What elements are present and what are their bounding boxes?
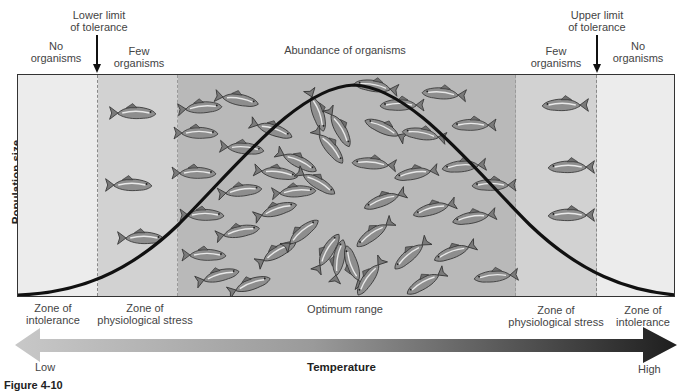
lower-limit-line1: Lower limit [62,9,136,21]
abundance-label: Abundance of organisms [270,44,420,56]
left-no-organisms-label: No organisms [25,40,87,64]
upper-limit-label: Upper limit of tolerance [560,9,634,33]
temperature-arrow-icon [0,326,679,366]
left-intolerance-line1: Zone of [22,302,84,314]
fish-group [106,75,595,297]
left-intolerance-line2: intolerance [22,314,84,326]
lower-limit-line2: of tolerance [62,21,136,33]
lower-limit-arrowhead-icon [93,64,101,73]
fish-and-curve-illustration [18,75,675,297]
lower-limit-label: Lower limit of tolerance [62,9,136,33]
right-intolerance-line1: Zone of [612,304,674,316]
right-no-line2: organisms [607,52,669,64]
right-few-line2: organisms [525,57,587,69]
left-few-line1: Few [108,45,170,57]
upper-limit-arrowhead-icon [593,64,601,73]
upper-limit-arrow-icon [596,35,598,65]
axis-high-label: High [638,363,661,375]
right-intolerance-label: Zone of intolerance [612,304,674,328]
right-stress-label: Zone of physiological stress [506,304,606,328]
left-stress-label: Zone of physiological stress [95,302,195,326]
axis-low-label: Low [35,361,55,373]
right-stress-line1: Zone of [506,304,606,316]
lower-limit-arrow-icon [96,35,98,65]
figure-caption: Figure 4-10 [4,379,63,391]
optimum-range-label: Optimum range [290,303,400,315]
tolerance-chart-panel [17,74,675,297]
left-no-line2: organisms [25,52,87,64]
left-few-organisms-label: Few organisms [108,45,170,69]
left-no-line1: No [25,40,87,52]
right-no-line1: No [607,40,669,52]
right-no-organisms-label: No organisms [607,40,669,64]
upper-limit-line2: of tolerance [560,21,634,33]
left-stress-line1: Zone of [95,302,195,314]
upper-limit-line1: Upper limit [560,9,634,21]
left-intolerance-label: Zone of intolerance [22,302,84,326]
axis-title-temperature: Temperature [307,361,376,373]
left-few-line2: organisms [108,57,170,69]
right-few-line1: Few [525,45,587,57]
left-stress-line2: physiological stress [95,314,195,326]
right-few-organisms-label: Few organisms [525,45,587,69]
